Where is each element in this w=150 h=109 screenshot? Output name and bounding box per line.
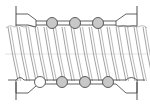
ball-bottom xyxy=(80,77,91,88)
nut-bottom xyxy=(8,78,145,101)
nut-top-left-deflector xyxy=(16,14,36,27)
nut-bottom-left-deflector xyxy=(8,80,36,93)
ball-top xyxy=(47,18,58,29)
screw-shaft xyxy=(5,26,150,82)
ball-screw-diagram xyxy=(0,0,150,109)
nut-top-right-deflector xyxy=(116,14,137,26)
balls-top xyxy=(47,18,104,29)
ball-bottom xyxy=(103,77,114,88)
ball-top xyxy=(93,18,104,29)
ball-top xyxy=(70,18,81,29)
nut-bottom-right-deflector xyxy=(116,80,145,93)
thread-crest-top-left xyxy=(6,26,34,29)
ball-bottom xyxy=(57,77,68,88)
ball-bottom-empty xyxy=(35,77,46,88)
